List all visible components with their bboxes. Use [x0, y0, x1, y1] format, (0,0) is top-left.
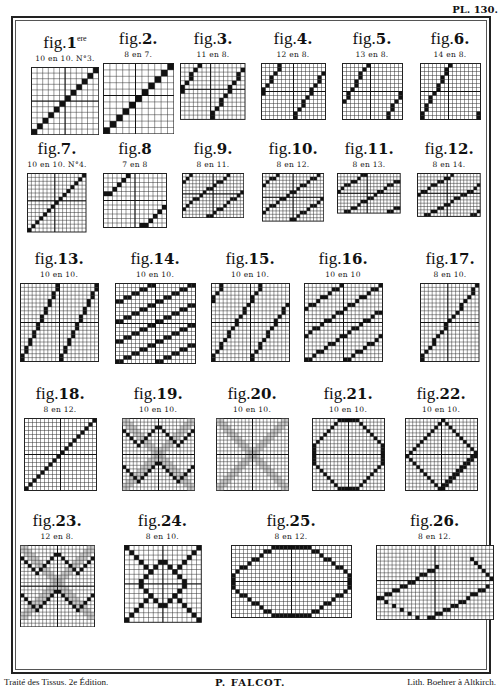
- figure-label: fig.: [268, 139, 291, 158]
- weave-grid: [31, 67, 99, 135]
- weave-grid: [122, 418, 195, 491]
- figure-title: fig.15.: [211, 250, 289, 268]
- figure-20: fig.20.10 en 10.: [216, 385, 288, 491]
- weave-grid: [103, 63, 174, 134]
- figure-ratio: 8 en 12.: [231, 532, 351, 542]
- weave-grid: [20, 283, 99, 362]
- figure-ratio: 10 en 10. N°3.: [30, 54, 100, 64]
- footer-lithographer: Lith. Boehrer à Altkirch.: [407, 677, 496, 687]
- weave-grid: [304, 283, 383, 362]
- weave-grid: [262, 173, 324, 222]
- footer-title: Traité des Tissus. 2e Édition.: [4, 677, 108, 687]
- figure-label: fig.: [118, 139, 141, 158]
- figure-title: fig.26.: [376, 512, 493, 530]
- weave-grid: [376, 545, 494, 620]
- figure-ratio: 10 en 10.: [122, 405, 194, 415]
- figure-label: fig.: [119, 29, 142, 48]
- figure-label: fig.: [133, 384, 156, 403]
- figure-title: fig.22.: [405, 385, 477, 403]
- weave-grid: [342, 63, 403, 120]
- figure-number: 22.: [440, 385, 466, 403]
- figure-label: fig.: [130, 249, 153, 268]
- figure-ratio: 7 en 8: [100, 160, 170, 170]
- figure-5: fig.5.13 en 8.: [337, 30, 407, 120]
- figure-superscript: ere: [77, 34, 87, 43]
- weave-grid: [20, 545, 95, 627]
- figure-ratio: 10 en 10. N°4.: [22, 160, 92, 170]
- figure-17: fig.17.8 en 10.: [415, 250, 485, 362]
- weave-grid: [124, 545, 202, 623]
- figure-title: fig.21.: [312, 385, 384, 403]
- weave-grid: [417, 173, 481, 217]
- figure-label: fig.: [410, 511, 433, 530]
- figure-title: fig.1ere: [30, 30, 100, 52]
- weave-grid: [405, 418, 478, 491]
- figure-label: fig.: [431, 29, 454, 48]
- weave-grid: [182, 173, 244, 218]
- figure-title: fig.3.: [178, 30, 248, 48]
- figure-number: 10.: [292, 140, 318, 158]
- weave-grid: [231, 545, 352, 618]
- figure-number: 15.: [249, 250, 275, 268]
- figure-number: 4.: [297, 30, 313, 48]
- figure-12: fig.12.8 en 14.: [414, 140, 484, 217]
- figure-title: fig.11.: [334, 140, 404, 158]
- weave-grid: [103, 173, 167, 228]
- figure-ratio: 8 en 10.: [415, 270, 485, 280]
- figure-number: 16.: [342, 250, 368, 268]
- figure-ratio: 10 en 10: [304, 270, 382, 280]
- figure-16: fig.16.10 en 10: [304, 250, 382, 362]
- figure-title: fig.18.: [24, 385, 96, 403]
- figure-title: fig.23.: [20, 512, 94, 530]
- figure-10: fig.10.8 en 12.: [258, 140, 328, 222]
- figure-ratio: 10 en 10.: [312, 405, 384, 415]
- weave-grid: [337, 173, 401, 214]
- figure-number: 12.: [448, 140, 474, 158]
- figure-ratio: 8 en 14.: [414, 160, 484, 170]
- figure-number: 21.: [347, 385, 373, 403]
- figure-ratio: 13 en 8.: [337, 50, 407, 60]
- figure-number: 6.: [454, 30, 470, 48]
- figure-ratio: 10 en 10.: [405, 405, 477, 415]
- weave-grid: [27, 173, 87, 233]
- figure-label: fig.: [194, 29, 217, 48]
- figure-label: fig.: [344, 139, 367, 158]
- figure-ratio: 8 en 12.: [24, 405, 96, 415]
- figure-9: fig.9.8 en 11.: [178, 140, 248, 218]
- plate-number: PL. 130.: [452, 4, 498, 15]
- figure-22: fig.22.10 en 10.: [405, 385, 477, 491]
- figure-21: fig.21.10 en 10.: [312, 385, 384, 491]
- figure-label: fig.: [318, 249, 341, 268]
- figure-8: fig.87 en 8: [100, 140, 170, 228]
- figure-ratio: 8 en 12.: [258, 160, 328, 170]
- weave-grid: [180, 63, 246, 120]
- weave-grid: [24, 418, 97, 491]
- weave-grid: [420, 63, 481, 120]
- figure-ratio: 8 en 12.: [376, 532, 493, 542]
- figure-3: fig.3.11 en 8.: [178, 30, 248, 120]
- figure-number: 25.: [290, 512, 316, 530]
- figure-number: 14.: [154, 250, 180, 268]
- figure-title: fig.4.: [258, 30, 328, 48]
- weave-grid: [261, 63, 326, 120]
- figure-24: fig.24.8 en 10.: [124, 512, 201, 623]
- figure-title: fig.13.: [20, 250, 98, 268]
- figure-title: fig.25.: [231, 512, 351, 530]
- figure-label: fig.: [34, 249, 57, 268]
- figure-23: fig.23.12 en 8.: [20, 512, 94, 627]
- figure-title: fig.14.: [115, 250, 195, 268]
- figure-ratio: 8 en 11.: [178, 160, 248, 170]
- figure-ratio: 10 en 10.: [211, 270, 289, 280]
- figure-title: fig.10.: [258, 140, 328, 158]
- figure-label: fig.: [225, 249, 248, 268]
- weave-grid: [115, 283, 196, 364]
- figure-7: fig.7.10 en 10. N°4.: [22, 140, 92, 233]
- figure-ratio: 11 en 8.: [178, 50, 248, 60]
- figure-title: fig.19.: [122, 385, 194, 403]
- figure-title: fig.6.: [415, 30, 485, 48]
- figure-label: fig.: [227, 384, 250, 403]
- figure-25: fig.25.8 en 12.: [231, 512, 351, 618]
- figure-number: 19.: [157, 385, 183, 403]
- figure-ratio: 10 en 10.: [216, 405, 288, 415]
- figure-title: fig.20.: [216, 385, 288, 403]
